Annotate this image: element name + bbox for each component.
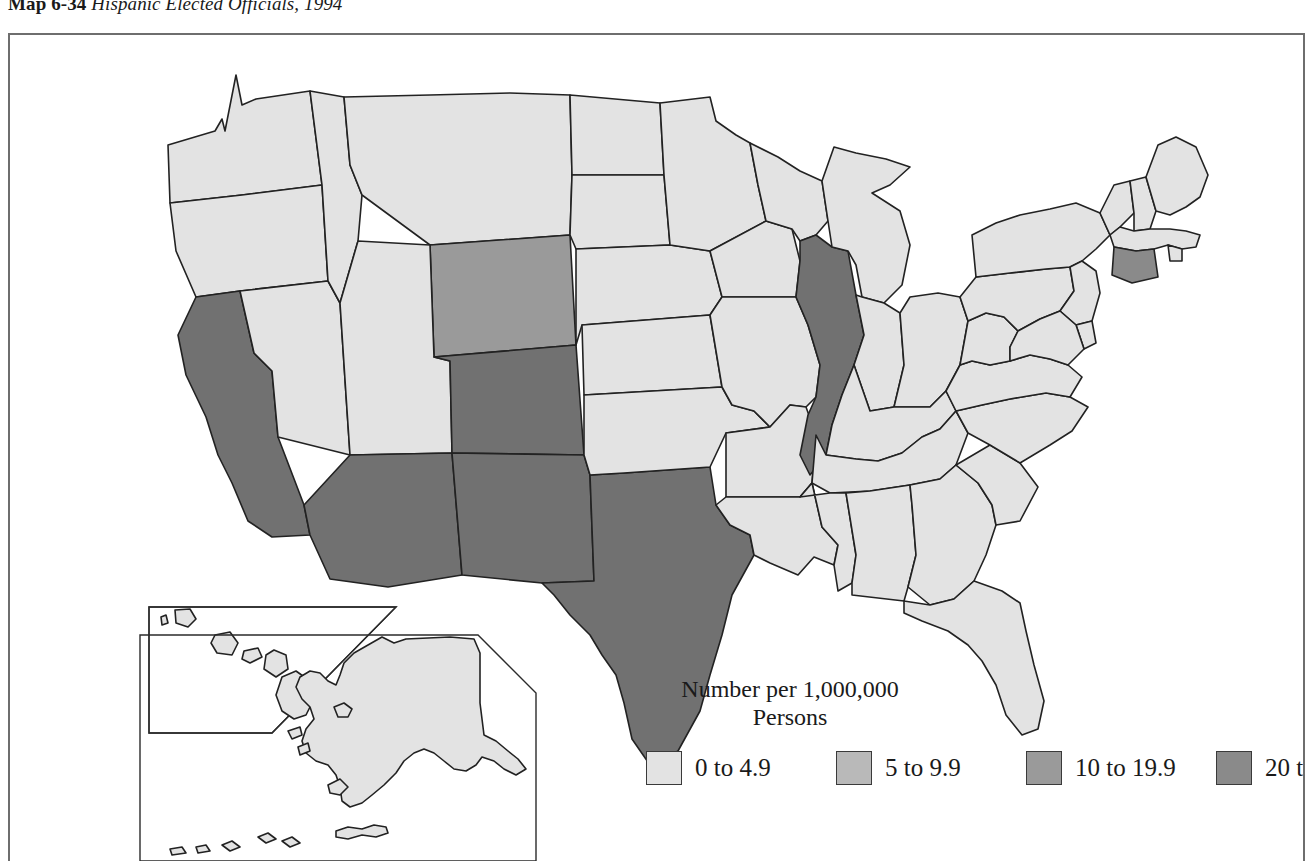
- state-massachusetts: [1110, 227, 1200, 251]
- state-shapes: [168, 75, 1208, 765]
- legend-heading-line2: Persons: [640, 703, 940, 731]
- state-wyoming: [430, 235, 576, 357]
- page-title: Map 6-34 Hispanic Elected Officials, 199…: [8, 0, 342, 17]
- map-title-text: Hispanic Elected Officials, 1994: [91, 0, 342, 14]
- legend-item-0-to-4-9: 0 to 4.9: [646, 745, 836, 790]
- legend-items: 0 to 4.9 5 to 9.9 10 to 19.9 20 to 39.9 …: [646, 745, 1106, 790]
- state-alabama: [846, 485, 916, 601]
- state-connecticut: [1112, 247, 1158, 283]
- legend-item-20-to-39-9: 20 to 39.9: [1216, 745, 1305, 790]
- legend-swatch-5-to-9-9: [836, 751, 872, 785]
- state-minnesota: [660, 97, 766, 251]
- map-number-label: Map 6-34: [8, 0, 86, 14]
- state-north-dakota: [570, 95, 664, 175]
- state-montana: [344, 93, 572, 245]
- state-maine: [1146, 137, 1208, 215]
- state-oregon: [170, 185, 328, 297]
- legend-label-20-to-39-9: 20 to 39.9: [1265, 754, 1305, 782]
- alaska-inset: [140, 635, 536, 861]
- state-new-mexico: [452, 453, 594, 583]
- state-colorado: [434, 345, 584, 455]
- state-arizona: [304, 453, 462, 587]
- state-south-dakota: [570, 175, 670, 249]
- alaska-shape: [170, 637, 526, 855]
- legend-label-0-to-4-9: 0 to 4.9: [695, 754, 771, 782]
- legend-label-10-to-19-9: 10 to 19.9: [1075, 754, 1176, 782]
- state-washington: [168, 75, 322, 203]
- legend-heading: Number per 1,000,000 Persons: [640, 675, 940, 731]
- legend-item-5-to-9-9: 5 to 9.9: [836, 745, 1026, 790]
- legend-swatch-10-to-19-9: [1026, 751, 1062, 785]
- map-frame: .st { stroke: #222222; stroke-width: 1.6…: [8, 33, 1305, 861]
- legend-swatch-20-to-39-9: [1216, 751, 1252, 785]
- legend-heading-line1: Number per 1,000,000: [640, 675, 940, 703]
- hawaii-islands: [161, 609, 314, 719]
- state-kansas: [582, 315, 722, 395]
- legend-label-5-to-9-9: 5 to 9.9: [885, 754, 961, 782]
- legend-swatch-0-to-4-9: [646, 751, 682, 785]
- legend-item-10-to-19-9: 10 to 19.9: [1026, 745, 1216, 790]
- map-legend: Number per 1,000,000 Persons 0 to 4.9 5 …: [646, 675, 1106, 790]
